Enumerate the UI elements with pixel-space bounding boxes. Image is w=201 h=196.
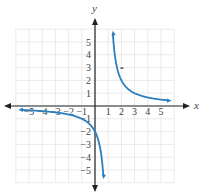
- x-tick-label: −5: [24, 106, 35, 117]
- y-axis-arrow-up-icon: [92, 18, 98, 25]
- x-tick-label: 3: [132, 106, 137, 117]
- curve-arrow-right-icon: [167, 98, 172, 102]
- x-tick-label: 2: [119, 106, 124, 117]
- x-tick-label: 5: [159, 106, 164, 117]
- x-axis-label: x: [193, 99, 199, 111]
- y-tick-label: 2: [86, 75, 91, 86]
- y-tick-label: 3: [86, 62, 91, 73]
- y-tick-label: −4: [80, 152, 91, 163]
- curve-arrow-left-icon: [18, 108, 23, 112]
- y-tick-label: −3: [80, 139, 91, 150]
- y-tick-label: 4: [86, 49, 91, 60]
- rational-function-graph: xy−5−4−3−2−11234554321−1−2−3−4−5: [0, 0, 201, 196]
- x-axis-arrow-right-icon: [183, 103, 190, 109]
- x-tick-label: 4: [145, 106, 150, 117]
- curve-arrow-down-icon: [102, 174, 106, 179]
- y-axis-arrow-down-icon: [92, 185, 98, 192]
- y-tick-label: 5: [86, 37, 91, 48]
- x-axis-arrow-left-icon: [4, 103, 11, 109]
- y-tick-label: −2: [80, 126, 91, 137]
- y-tick-label: −5: [80, 165, 91, 176]
- y-axis-label: y: [91, 2, 97, 14]
- y-tick-label: 1: [86, 88, 91, 99]
- curve-arrow-up-icon: [111, 31, 115, 36]
- x-tick-label: 1: [106, 106, 111, 117]
